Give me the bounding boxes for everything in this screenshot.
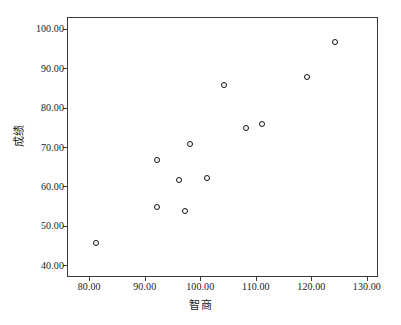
data-point [221,82,227,88]
data-point [259,121,265,127]
data-point [304,74,310,80]
data-point [332,39,338,45]
x-axis-title: 智商 [0,296,401,312]
x-axis-tick-label: 80.00 [59,281,119,293]
data-points-layer [68,18,377,276]
data-point [182,208,188,214]
y-axis-tick-label: 50.00 [4,220,64,231]
data-point [176,177,182,183]
x-axis-tick-label: 90.00 [115,281,175,293]
x-axis-tick-label: 120.00 [281,281,341,293]
y-axis-tick-label: 90.00 [4,63,64,74]
x-axis-tick-label: 110.00 [226,281,286,293]
plot-area [67,17,378,277]
data-point [243,125,249,131]
data-point [93,240,99,246]
y-axis-tick-label: 100.00 [4,23,64,34]
data-point [204,175,210,181]
data-point [154,204,160,210]
y-axis-title: 成绩 [10,124,26,147]
y-axis-tick-label: 80.00 [4,102,64,113]
y-axis-tick-label: 40.00 [4,260,64,271]
x-axis-tick-label: 100.00 [170,281,230,293]
x-axis-tick-label: 130.00 [337,281,397,293]
data-point [187,141,193,147]
scatter-chart: 80.0090.00100.00110.00120.00130.0040.005… [0,0,401,325]
y-axis-tick-label: 60.00 [4,181,64,192]
data-point [154,157,160,163]
